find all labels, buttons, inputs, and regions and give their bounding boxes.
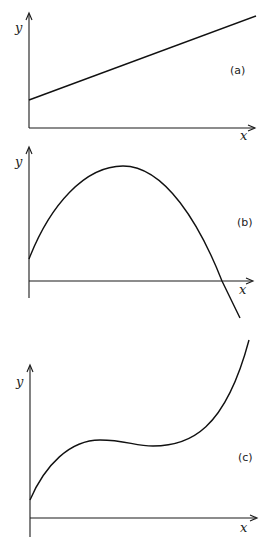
graphs-figure: y x (a) y x (b) y x (c) [0,0,273,548]
cubic-graph [30,340,249,500]
panel-label: (c) [238,451,253,464]
panel-b: y x (b) [14,147,253,318]
x-axis-label: x [239,282,247,297]
panel-a: y x (a) [14,13,256,143]
panel-label: (a) [230,64,245,77]
y-axis-label: y [15,374,24,389]
quadratic-graph [29,166,240,318]
linear-graph [29,16,256,100]
panel-c: y x (c) [15,340,257,537]
y-axis-label: y [14,154,23,169]
x-axis-label: x [240,128,248,143]
x-axis-label: x [240,520,248,535]
panel-label: (b) [237,216,253,229]
y-axis-label: y [14,20,23,35]
